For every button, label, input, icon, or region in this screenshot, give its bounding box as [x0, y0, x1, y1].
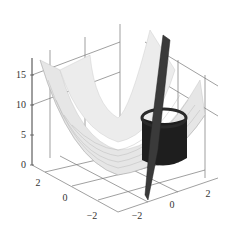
surface-plot: 0 5 10 15 2 0 −2 −2 0 2 [0, 0, 243, 240]
left-tick-neg2: −2 [87, 210, 98, 221]
z-tick-0: 0 [21, 159, 26, 170]
right-tick-2: 2 [206, 188, 211, 199]
left-tick-0: 0 [63, 192, 68, 203]
right-axis: −2 0 2 [132, 188, 211, 221]
z-tick-5: 5 [21, 129, 26, 140]
left-tick-2: 2 [36, 177, 41, 188]
z-axis: 0 5 10 15 [16, 58, 34, 170]
z-tick-15: 15 [16, 69, 26, 80]
right-tick-neg2: −2 [132, 210, 143, 221]
right-tick-0: 0 [170, 199, 175, 210]
z-tick-10: 10 [16, 99, 26, 110]
